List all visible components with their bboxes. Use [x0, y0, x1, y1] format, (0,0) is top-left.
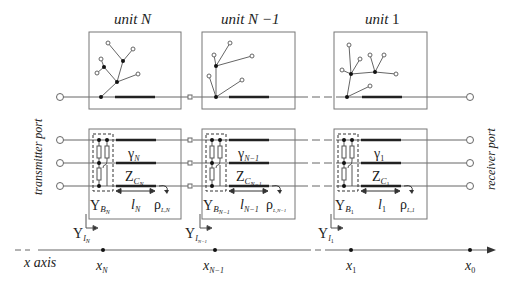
svg-text:YB1: YB1 [335, 198, 354, 215]
x-axis-label: x axis [23, 255, 57, 270]
receiver-port-label: receiver port [484, 127, 498, 190]
unit-n-title: unit N [114, 11, 152, 27]
unit-n-minus-1-mtl-box: γN−1 ZCN−1 YBN−1 lN−1 ρL,N−1 [202, 129, 295, 219]
svg-text:ρL,1: ρL,1 [400, 197, 415, 213]
x-axis-arrow-icon [487, 247, 496, 254]
svg-text:γN: γN [127, 146, 140, 163]
svg-text:YBN−1: YBN−1 [203, 198, 230, 215]
svg-text:ZCN−1: ZCN−1 [236, 169, 262, 187]
receiver-top-terminal [467, 94, 474, 101]
svg-text:ZCN: ZCN [125, 169, 145, 187]
unit-n-minus-1-title: unit N −1 [221, 11, 279, 27]
transmitter-top-terminal [57, 94, 64, 101]
yi-n-minus-1-label: YIN−1 [185, 226, 207, 244]
transmitter-port-label: transmitter port [31, 118, 45, 195]
svg-text:ZC1: ZC1 [372, 169, 390, 187]
svg-text:l1: l1 [378, 197, 386, 214]
transmitter-port-terminals [57, 137, 64, 190]
x-n-minus-1-label: xN−1 [202, 258, 224, 275]
svg-text:lN: lN [131, 197, 141, 214]
svg-text:ρL,N−1: ρL,N−1 [266, 197, 286, 214]
unit-1-title: unit 1 [365, 11, 400, 27]
mtl-cascade-diagram: unit N unit N −1 unit 1 γN ZCN YB [0, 0, 510, 284]
svg-text:lN−1: lN−1 [240, 197, 259, 214]
junction-square [188, 95, 192, 99]
svg-text:ρL,N: ρL,N [154, 197, 171, 213]
unit-n-mtl-box: γN ZCN YBN lN ρL,N [89, 129, 181, 219]
x-n-label: xN [95, 258, 108, 275]
x-0-label: x0 [464, 258, 475, 275]
receiver-port-terminals [467, 137, 474, 190]
junction-squares [188, 138, 192, 188]
svg-text:γ1: γ1 [373, 146, 384, 163]
yi-1-label: YI1 [318, 226, 334, 244]
yi-n-label: YIN [73, 226, 91, 244]
unit-1-mtl-box: γ1 ZC1 YB1 l1 ρL,1 [334, 129, 427, 219]
input-admittance-markers [86, 214, 343, 231]
x-1-label: x1 [345, 258, 356, 275]
svg-text:YBN: YBN [90, 198, 111, 215]
svg-text:γN−1: γN−1 [237, 146, 259, 163]
